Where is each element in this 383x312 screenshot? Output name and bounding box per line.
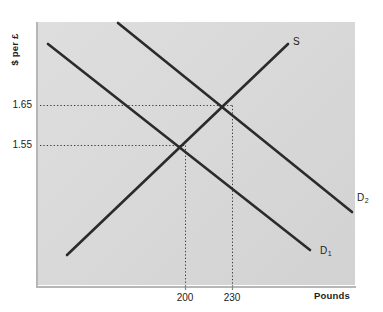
curve-label-demand-2-sub: 2	[364, 197, 368, 204]
curve-label-supply: S	[293, 36, 300, 47]
leader-lines-1-55	[40, 146, 186, 287]
curve-label-demand-2: D2	[357, 192, 369, 203]
curve-layer	[0, 0, 383, 312]
y-axis-title: $ per £	[9, 22, 20, 78]
curve-label-demand-1-sub: 1	[327, 250, 331, 257]
curve-demand-2	[118, 23, 352, 212]
x-tick-label-200: 200	[168, 292, 202, 303]
x-axis-ticks	[186, 285, 233, 290]
x-tick-label-230: 230	[215, 292, 249, 303]
curve-label-demand-1: D1	[320, 245, 332, 256]
curve-label-supply-text: S	[293, 36, 300, 47]
supply-demand-figure: • 1.65 1.55 200 230 $ per £	[0, 0, 383, 312]
curve-supply	[67, 44, 288, 255]
y-tick-label-upper: 1.65	[2, 99, 32, 110]
x-axis-title: Pounds	[314, 290, 350, 301]
y-tick-label-lower: 1.55	[2, 139, 32, 150]
leader-lines-1-65	[40, 106, 233, 287]
